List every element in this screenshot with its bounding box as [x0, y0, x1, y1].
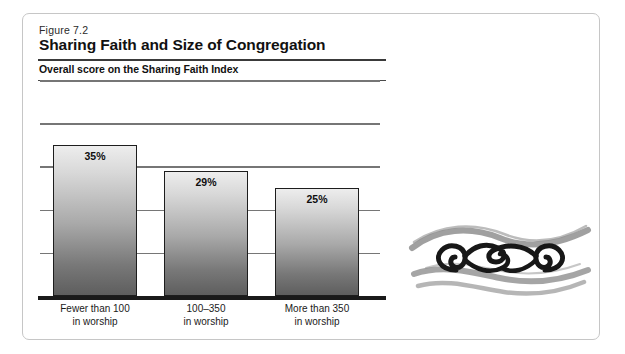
bar: 25% [275, 188, 359, 296]
x-axis-label-line: More than 350 [257, 303, 377, 316]
x-axis-label-line: in worship [257, 316, 377, 329]
figure-card: Figure 7.2 Sharing Faith and Size of Con… [22, 13, 600, 340]
x-axis-label-line: 100–350 [146, 303, 266, 316]
bar: 35% [53, 145, 137, 296]
x-axis-baseline [38, 296, 386, 300]
bars-group: 35%29%25% [38, 80, 386, 296]
x-axis-label: Fewer than 100in worship [35, 303, 155, 328]
x-axis-label: 100–350in worship [146, 303, 266, 328]
bar: 29% [164, 171, 248, 296]
x-axis-label-line: in worship [35, 316, 155, 329]
x-axis-label-line: in worship [146, 316, 266, 329]
bar-value-label: 25% [276, 193, 358, 205]
title-divider [38, 59, 386, 61]
chart-plot-area: 35%29%25% [38, 80, 386, 296]
figure-number: Figure 7.2 [39, 24, 88, 36]
bar-value-label: 35% [54, 150, 136, 162]
figure-subtitle: Overall score on the Sharing Faith Index [39, 63, 238, 75]
x-axis-label: More than 350in worship [257, 303, 377, 328]
brush-stroke-spiral-ornament [408, 212, 593, 304]
figure-title: Sharing Faith and Size of Congregation [39, 36, 325, 54]
bar-value-label: 29% [165, 176, 247, 188]
x-axis-label-line: Fewer than 100 [35, 303, 155, 316]
